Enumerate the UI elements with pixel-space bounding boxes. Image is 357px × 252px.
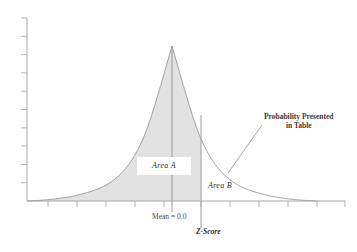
probability-line-2: in Table <box>264 122 334 131</box>
probability-line-1: Probability Presented <box>264 112 334 121</box>
area-a-label: Area A <box>137 157 191 175</box>
probability-presented-label: Probability Presented in Table <box>264 113 334 130</box>
normal-distribution-figure: Area A Area B Probability Presented in T… <box>0 0 357 252</box>
x-axis-ticks <box>48 201 345 207</box>
area-a-text: Area A <box>152 161 176 170</box>
area-a-shaded-region <box>27 46 201 201</box>
z-score-axis-label: Z-Score <box>196 228 221 237</box>
area-b-label: Area B <box>208 181 232 190</box>
mean-axis-label: Mean = 0.0 <box>152 213 186 222</box>
probability-leader-line <box>228 125 262 173</box>
y-axis-ticks <box>21 18 27 183</box>
